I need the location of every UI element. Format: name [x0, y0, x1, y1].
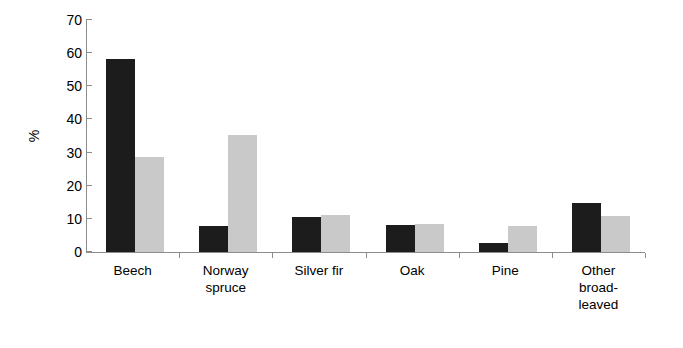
bar-group — [366, 20, 459, 252]
y-tick-label: 50 — [66, 78, 82, 94]
bar-group — [179, 20, 272, 252]
x-tick-mark — [552, 253, 553, 258]
y-tick-label: 40 — [66, 111, 82, 127]
x-tick-mark — [459, 253, 460, 258]
y-tick-0: 0 — [44, 244, 92, 260]
bar-group — [86, 20, 179, 252]
bar — [508, 226, 537, 252]
bar — [292, 217, 321, 252]
bar-chart-figure: % 010203040506070 BeechNorway spruceSilv… — [0, 0, 683, 348]
bar — [135, 157, 164, 252]
bar — [228, 135, 257, 252]
bar-group — [552, 20, 645, 252]
bar — [415, 224, 444, 252]
bar — [321, 215, 350, 252]
category-label: Other broad- leaved — [533, 262, 663, 313]
bar — [601, 216, 630, 252]
x-tick-mark — [179, 253, 180, 258]
bar — [572, 203, 601, 252]
x-tick-mark — [272, 253, 273, 258]
bar — [106, 59, 135, 252]
y-tick-label: 30 — [66, 145, 82, 161]
y-tick-label: 20 — [66, 178, 82, 194]
y-tick-40: 40 — [44, 111, 92, 127]
y-axis-title: % — [26, 124, 42, 148]
y-tick-label: 0 — [74, 244, 82, 260]
plot-area — [86, 20, 645, 252]
y-tick-30: 30 — [44, 145, 92, 161]
y-tick-20: 20 — [44, 178, 92, 194]
bar — [479, 243, 508, 252]
y-tick-label: 60 — [66, 45, 82, 61]
x-tick-mark — [645, 253, 646, 258]
y-tick-60: 60 — [44, 45, 92, 61]
y-tick-10: 10 — [44, 211, 92, 227]
bar-group — [459, 20, 552, 252]
y-tick-label: 70 — [66, 12, 82, 28]
bar — [386, 225, 415, 253]
bar — [199, 226, 228, 253]
y-tick-70: 70 — [44, 12, 92, 28]
y-tick-label: 10 — [66, 211, 82, 227]
bar-group — [272, 20, 365, 252]
x-tick-mark — [366, 253, 367, 258]
y-tick-50: 50 — [44, 78, 92, 94]
